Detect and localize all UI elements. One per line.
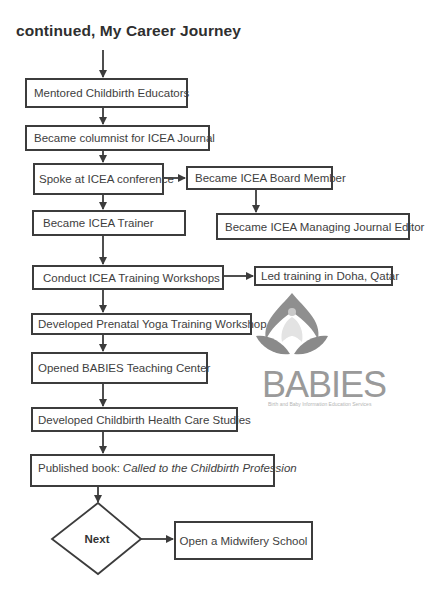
branch-label: Became ICEA Board Member (195, 172, 346, 184)
branch-doha: Led training in Doha, Qatar (254, 266, 393, 286)
decision-label: Next (85, 533, 110, 545)
step-label: Developed Prenatal Yoga Training Worksho… (38, 318, 267, 330)
babies-tagline: Birth and Baby Information Education Ser… (268, 401, 371, 407)
step-label: Spoke at ICEA conference (39, 173, 174, 185)
step-babies-center: Opened BABIES Teaching Center (31, 352, 208, 384)
step-label: Opened BABIES Teaching Center (38, 362, 210, 374)
branch-board-member: Became ICEA Board Member (186, 166, 333, 190)
step-label: Mentored Childbirth Educators (34, 87, 189, 99)
step-label: Became columnist for ICEA Journal (34, 132, 215, 144)
step-mentored: Mentored Childbirth Educators (25, 78, 188, 108)
final-label: Open a Midwifery School (180, 535, 308, 547)
step-spoke: Spoke at ICEA conference (33, 163, 164, 195)
step-label: Became ICEA Trainer (43, 217, 154, 229)
step-published: Published book: Called to the Childbirth… (30, 454, 275, 487)
step-trainer: Became ICEA Trainer (32, 210, 186, 236)
babies-wordmark: BABIES (262, 364, 386, 406)
branch-label: Became ICEA Managing Journal Editor (225, 221, 424, 233)
step-label: Developed Childbirth Health Care Studies (38, 414, 251, 426)
step-label: Conduct ICEA Training Workshops (43, 272, 220, 284)
branch-managing-editor: Became ICEA Managing Journal Editor (216, 213, 410, 240)
book-title: Called to the Childbirth Profession (123, 462, 297, 474)
step-columnist: Became columnist for ICEA Journal (25, 125, 210, 151)
step-label-prefix: Published book: (38, 462, 120, 474)
step-workshops: Conduct ICEA Training Workshops (32, 265, 224, 290)
step-health-care: Developed Childbirth Health Care Studies (31, 407, 238, 432)
final-midwifery: Open a Midwifery School (174, 521, 313, 560)
babies-lotus-logo-icon (252, 290, 412, 370)
step-yoga: Developed Prenatal Yoga Training Worksho… (31, 313, 252, 335)
branch-label: Led training in Doha, Qatar (261, 270, 399, 282)
